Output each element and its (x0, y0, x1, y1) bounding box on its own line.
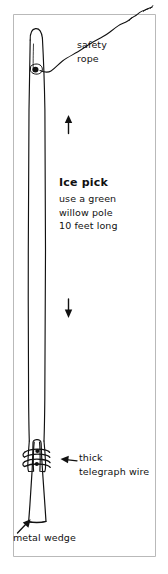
page-title: Ice pick (59, 176, 108, 190)
label-metal-wedge: metal wedge (13, 531, 76, 545)
arrow-up-head (65, 115, 72, 123)
label-telegraph-wire: thick telegraph wire (79, 451, 149, 478)
label-safety-rope: safety rope (77, 38, 107, 65)
arrow-left-icon (61, 456, 78, 463)
wire-pointer-head (61, 456, 69, 463)
arrow-down-icon (65, 299, 72, 318)
ice-pick-drawing (0, 0, 168, 574)
ice-pick-figure: safety rope Ice pick use a green willow … (0, 0, 168, 574)
wire-curl-left-lower (23, 462, 25, 467)
spec-line-3: 10 feet long (59, 219, 118, 233)
spec-line-2: willow pole (59, 206, 118, 220)
telegraph-wire-wraps (23, 449, 50, 467)
wire-twist-dot-lower (35, 462, 39, 466)
safety-rope-line-2: rope (77, 52, 107, 66)
pole-split-end (28, 441, 46, 472)
pole-edge-right (42, 38, 45, 441)
telegraph-line-2: telegraph wire (79, 465, 149, 479)
rope-knot (30, 64, 42, 74)
safety-rope-line-1: safety (77, 38, 107, 52)
arrow-up-icon (65, 115, 72, 134)
telegraph-line-1: thick (79, 451, 149, 465)
willow-pole (28, 29, 45, 441)
spec-line-1: use a green (59, 192, 118, 206)
wire-twist-dot-upper (35, 449, 39, 453)
arrow-down-head (65, 310, 72, 319)
pole-top-cap (30, 29, 42, 40)
label-pole-spec: use a green willow pole 10 feet long (59, 192, 118, 233)
pole-edge-left (28, 40, 30, 441)
rope-knot-dot (32, 67, 38, 73)
